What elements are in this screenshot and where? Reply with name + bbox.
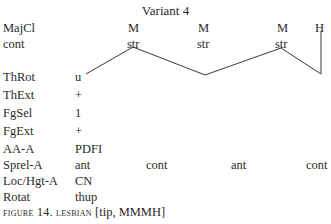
contour-line xyxy=(0,0,331,224)
thext-value: + xyxy=(75,89,82,102)
caption-sign-name: LESBIAN xyxy=(56,205,92,219)
sprel-a-value-2: cont xyxy=(146,159,168,172)
throt-value: u xyxy=(75,71,81,84)
sprel-a-value-4: cont xyxy=(306,159,328,172)
rotat-value: thup xyxy=(75,191,97,204)
sprel-a-value-1: ant xyxy=(75,159,90,172)
sprel-a-value-3: ant xyxy=(231,159,246,172)
caption-figure-label: FIGURE 14. xyxy=(3,205,53,219)
figure-caption: FIGURE 14. LESBIAN [tip, MMMH] xyxy=(3,206,165,219)
caption-rest: [tip, MMMH] xyxy=(95,205,165,219)
row-label-throt: ThRot xyxy=(3,71,35,84)
fgsel-value: 1 xyxy=(75,107,81,120)
row-label-loc-hgt-a: Loc/Hgt-A xyxy=(3,175,58,188)
row-label-sprel-a: Sprel-A xyxy=(3,159,43,172)
row-label-fgext: FgExt xyxy=(3,125,34,138)
fgext-value: + xyxy=(75,125,82,138)
row-label-aa-a: AA-A xyxy=(3,143,34,156)
aa-a-value: PDFI xyxy=(75,143,102,156)
loc-hgt-a-value: CN xyxy=(75,175,92,188)
row-label-rotat: Rotat xyxy=(3,191,30,204)
row-label-fgsel: FgSel xyxy=(3,107,32,120)
row-label-thext: ThExt xyxy=(3,89,34,102)
